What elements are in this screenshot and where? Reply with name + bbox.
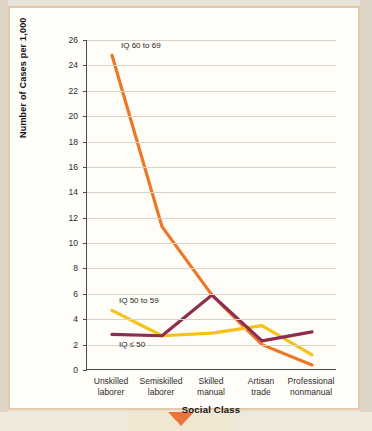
- figure-page: Number of Cases per 1,000 02468101214161…: [0, 0, 372, 431]
- chart-container: Number of Cases per 1,000 02468101214161…: [24, 18, 346, 402]
- gridline: [87, 167, 336, 168]
- gridline: [87, 142, 336, 143]
- gridline: [87, 91, 336, 92]
- y-tick-mark: [83, 218, 87, 219]
- y-tick-mark: [83, 116, 87, 117]
- y-tick-label: 22: [52, 86, 78, 96]
- y-tick-mark: [83, 167, 87, 168]
- y-tick-label: 10: [52, 238, 78, 248]
- y-tick-mark: [83, 345, 87, 346]
- gridline: [87, 319, 336, 320]
- plot-area: [86, 40, 336, 370]
- y-tick-mark: [83, 370, 87, 371]
- y-tick-mark: [83, 40, 87, 41]
- y-tick-mark: [83, 268, 87, 269]
- x-axis-title: Social Class: [86, 404, 336, 415]
- series-annotation: IQ 60 to 69: [121, 41, 161, 50]
- y-tick-label: 14: [52, 187, 78, 197]
- y-tick-label: 18: [52, 137, 78, 147]
- y-tick-mark: [83, 91, 87, 92]
- figure-card: Number of Cases per 1,000 02468101214161…: [8, 6, 360, 410]
- gridline: [87, 218, 336, 219]
- x-tick-label-line: Professional: [279, 376, 343, 387]
- y-tick-mark: [83, 294, 87, 295]
- y-tick-mark: [83, 65, 87, 66]
- y-tick-label: 16: [52, 162, 78, 172]
- gridline: [87, 192, 336, 193]
- gridline: [87, 268, 336, 269]
- gridline: [87, 243, 336, 244]
- y-axis-title: Number of Cases per 1,000: [18, 17, 28, 138]
- y-tick-label: 26: [52, 35, 78, 45]
- y-tick-label: 6: [52, 289, 78, 299]
- y-tick-mark: [83, 243, 87, 244]
- y-tick-label: 0: [52, 365, 78, 375]
- y-tick-mark: [83, 192, 87, 193]
- y-tick-label: 2: [52, 340, 78, 350]
- x-tick-label: Professionalnonmanual: [279, 376, 343, 398]
- y-tick-label: 8: [52, 263, 78, 273]
- page-left-margin: [0, 0, 8, 431]
- series-annotation: IQ 50 to 59: [119, 296, 159, 305]
- y-tick-label: 12: [52, 213, 78, 223]
- y-tick-label: 24: [52, 60, 78, 70]
- series-annotation: IQ ≤ 50: [119, 340, 145, 349]
- x-tick-label-line: nonmanual: [279, 387, 343, 398]
- y-tick-label: 4: [52, 314, 78, 324]
- page-right-margin: [360, 0, 372, 431]
- gridline: [87, 116, 336, 117]
- y-tick-mark: [83, 142, 87, 143]
- gridline: [87, 294, 336, 295]
- y-tick-mark: [83, 319, 87, 320]
- gridline: [87, 65, 336, 66]
- series-lines: [87, 40, 337, 370]
- y-tick-label: 20: [52, 111, 78, 121]
